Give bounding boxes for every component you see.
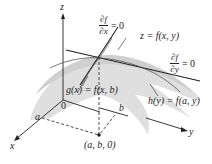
y-axis-arrow [181,127,188,132]
point-b-label: b [119,103,124,113]
curve-g-label: g(x) = f(x, b) [66,85,118,95]
partial-x-equals: = 0 [111,21,124,31]
partial-x-denominator: ∂x [99,26,107,36]
y-axis [146,118,185,130]
z-axis-label: z [60,2,64,12]
diagram-canvas: z x y 0 ∂f ∂x = 0 ∂f ∂y = 0 z = f(x, y) … [0,0,212,164]
partial-x-numerator: ∂f [99,15,108,26]
partial-y-equation: ∂f ∂y = 0 [170,53,195,74]
z-axis-arrow [61,13,65,19]
dashed-from-b [99,115,115,135]
base-point [97,133,101,137]
curve-h-label: h(y) = f(a, y) [148,96,200,106]
point-a-label: a [35,112,40,122]
x-axis-label: x [10,141,14,151]
partial-y-equals: = 0 [182,59,195,69]
leader-surface [118,38,126,50]
base-point-label: (a, b, 0) [84,140,116,150]
origin-label: 0 [61,101,66,111]
dashed-from-a [42,118,99,135]
partial-y-denominator: ∂y [170,64,178,74]
partial-x-equation: ∂f ∂x = 0 [99,15,124,36]
partial-y-numerator: ∂f [170,53,179,64]
surface-label: z = f(x, y) [140,31,179,41]
y-axis-label: y [189,127,193,137]
